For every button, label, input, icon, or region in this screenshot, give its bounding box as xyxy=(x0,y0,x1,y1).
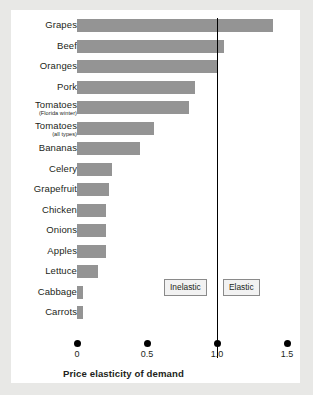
bar xyxy=(77,19,273,32)
bar xyxy=(77,163,112,176)
category-label: Pork xyxy=(0,81,77,92)
category-label: Grapefruit xyxy=(0,183,77,194)
bar xyxy=(77,306,83,319)
category-label-text: Chicken xyxy=(0,204,77,215)
category-label: Lettuce xyxy=(0,265,77,276)
tick-dot-icon xyxy=(74,340,81,347)
tick-label: 1.0 xyxy=(197,349,237,359)
category-label-text: Lettuce xyxy=(0,265,77,276)
tick-dot-icon xyxy=(214,340,221,347)
tick-label: 1.5 xyxy=(267,349,307,359)
bar xyxy=(77,245,106,258)
bar-row: Chicken xyxy=(11,204,300,225)
tick-dot-icon xyxy=(144,340,151,347)
bar-row: Oranges xyxy=(11,60,300,81)
bar-row: Apples xyxy=(11,245,300,266)
chart-figure: GrapesBeefOrangesPorkTomatoes(Florida wi… xyxy=(0,0,313,395)
bar-row: Grapefruit xyxy=(11,183,300,204)
category-label: Onions xyxy=(0,224,77,235)
bar xyxy=(77,122,154,135)
bar-row: Onions xyxy=(11,224,300,245)
bar xyxy=(77,286,83,299)
bar-row: Carrots xyxy=(11,306,300,327)
category-label: Chicken xyxy=(0,204,77,215)
category-label-text: Tomatoes xyxy=(0,120,77,131)
bar xyxy=(77,265,98,278)
category-label-text: Tomatoes xyxy=(0,99,77,110)
category-label-text: Grapes xyxy=(0,19,77,30)
elastic-region-label: Elastic xyxy=(223,279,260,296)
bar-row: Tomatoes(all types) xyxy=(11,122,300,143)
category-label: Tomatoes(Florida winter) xyxy=(0,99,77,116)
category-sublabel-text: (all types) xyxy=(0,131,77,137)
category-label: Carrots xyxy=(0,306,77,317)
bar xyxy=(77,204,106,217)
category-label: Beef xyxy=(0,40,77,51)
category-label-text: Carrots xyxy=(0,306,77,317)
chart-panel: GrapesBeefOrangesPorkTomatoes(Florida wi… xyxy=(11,10,300,383)
category-label: Apples xyxy=(0,245,77,256)
category-label: Oranges xyxy=(0,60,77,71)
bar-row: Beef xyxy=(11,40,300,61)
bar-row: Grapes xyxy=(11,19,300,40)
category-label: Grapes xyxy=(0,19,77,30)
tick-label: 0.5 xyxy=(127,349,167,359)
tick-label: 0 xyxy=(57,349,97,359)
bar-row: Tomatoes(Florida winter) xyxy=(11,101,300,122)
category-label: Tomatoes(all types) xyxy=(0,120,77,137)
bar xyxy=(77,60,217,73)
bar-row: Pork xyxy=(11,81,300,102)
inelastic-region-label: Inelastic xyxy=(164,279,207,296)
bar-row: Celery xyxy=(11,163,300,184)
category-label-text: Grapefruit xyxy=(0,183,77,194)
bar xyxy=(77,142,140,155)
category-label: Bananas xyxy=(0,142,77,153)
category-sublabel-text: (Florida winter) xyxy=(0,110,77,116)
category-label-text: Pork xyxy=(0,81,77,92)
x-axis: 00.51.01.5 Price elasticity of demand xyxy=(11,340,300,383)
category-label-text: Celery xyxy=(0,163,77,174)
bar xyxy=(77,81,195,94)
category-label-text: Cabbage xyxy=(0,286,77,297)
category-label-text: Beef xyxy=(0,40,77,51)
tick-dot-icon xyxy=(284,340,291,347)
category-label-text: Onions xyxy=(0,224,77,235)
category-label-text: Apples xyxy=(0,245,77,256)
bar-row: Bananas xyxy=(11,142,300,163)
unit-elastic-line-icon xyxy=(217,18,218,358)
category-label-text: Bananas xyxy=(0,142,77,153)
category-label: Celery xyxy=(0,163,77,174)
x-axis-title: Price elasticity of demand xyxy=(63,368,184,379)
bar xyxy=(77,40,224,53)
bar xyxy=(77,101,189,114)
category-label-text: Oranges xyxy=(0,60,77,71)
bar xyxy=(77,183,109,196)
category-label: Cabbage xyxy=(0,286,77,297)
plot-area: GrapesBeefOrangesPorkTomatoes(Florida wi… xyxy=(11,10,300,383)
bar xyxy=(77,224,106,237)
